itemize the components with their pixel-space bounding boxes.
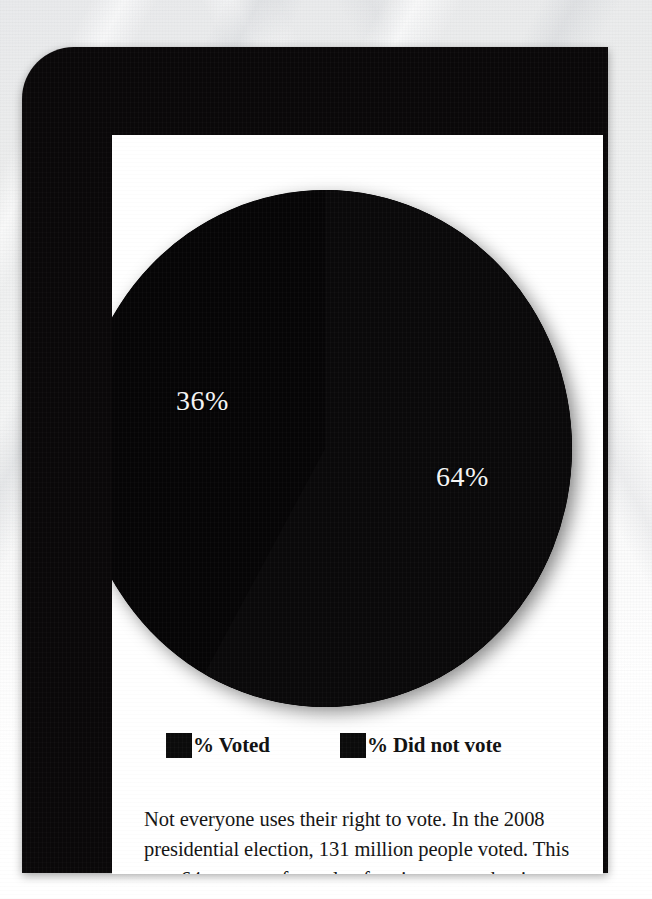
- legend-label-voted: % Voted: [193, 733, 270, 758]
- pie-slice-label-did-not-vote: 36%: [176, 387, 229, 415]
- pie-slice-label-voted: 64%: [436, 463, 489, 491]
- pie-chart: 36% 64%: [112, 190, 572, 707]
- chart-legend: % Voted % Did not vote: [166, 733, 586, 767]
- poster-container: 36% 64% % Voted % Did not vote Not every…: [0, 0, 652, 899]
- legend-swatch-icon: [340, 733, 366, 758]
- legend-swatch-icon: [166, 733, 192, 758]
- legend-item-did-not-vote[interactable]: % Did not vote: [340, 733, 502, 758]
- card-white-panel: 36% 64% % Voted % Did not vote Not every…: [112, 135, 603, 874]
- caption-text: Not everyone uses their right to vote. I…: [144, 804, 582, 875]
- legend-label-did-not-vote: % Did not vote: [367, 733, 502, 758]
- card-frame: 36% 64% % Voted % Did not vote Not every…: [22, 47, 608, 873]
- legend-item-voted[interactable]: % Voted: [166, 733, 270, 758]
